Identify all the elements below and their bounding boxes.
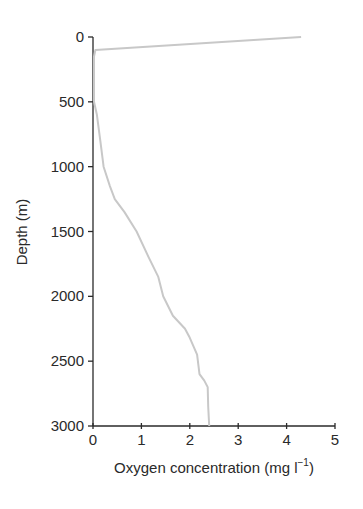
y-tick-label: 500 <box>59 93 84 110</box>
axes <box>93 37 335 426</box>
y-tick-label: 0 <box>76 28 84 45</box>
x-tick-label: 3 <box>234 431 242 448</box>
x-tick-label: 2 <box>186 431 194 448</box>
x-tick-label: 5 <box>331 431 339 448</box>
depth-oxygen-chart: 050010001500200025003000 012345 Depth (m… <box>0 0 363 509</box>
x-tick-label: 1 <box>137 431 145 448</box>
y-tick-label: 2500 <box>51 352 84 369</box>
y-tick-label: 2000 <box>51 287 84 304</box>
oxygen-profile-line <box>94 37 301 426</box>
x-tick-label: 0 <box>89 431 97 448</box>
y-tick-label: 1000 <box>51 158 84 175</box>
y-axis-title: Depth (m) <box>13 199 30 266</box>
y-tick-label: 1500 <box>51 223 84 240</box>
x-tick-label: 4 <box>282 431 290 448</box>
x-ticks: 012345 <box>89 423 339 448</box>
x-axis-title: Oxygen concentration (mg l−1) <box>114 457 314 476</box>
y-ticks: 050010001500200025003000 <box>51 28 93 434</box>
y-tick-label: 3000 <box>51 417 84 434</box>
